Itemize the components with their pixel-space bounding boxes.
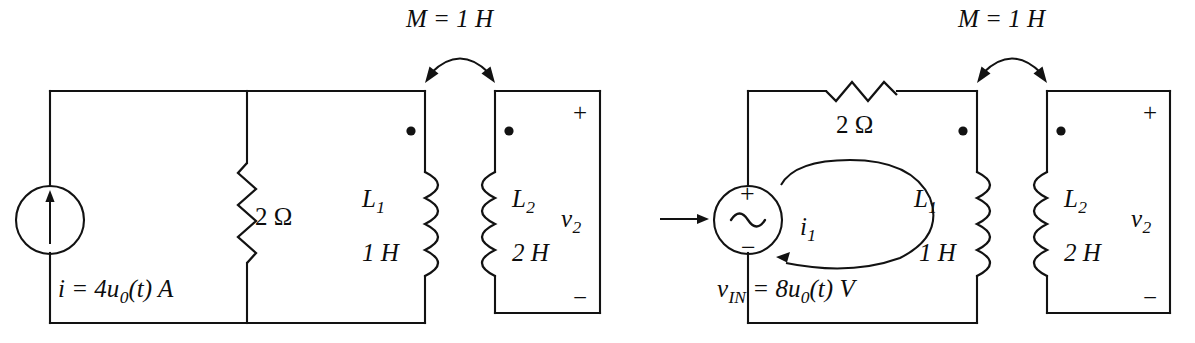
transform-arrow-head <box>697 214 709 224</box>
right-L1-polarity-dot <box>958 126 967 135</box>
left-coupling-arc <box>431 59 489 74</box>
left-L1-label: L1 <box>362 186 385 216</box>
left-coupling-label: M = 1 H <box>406 6 493 31</box>
transform-arrow-group <box>660 214 709 224</box>
right-coupling-label: M = 1 H <box>958 6 1045 31</box>
right-output-plus-sign: + <box>1143 100 1157 125</box>
voltage-source-plus-sign: + <box>740 181 755 207</box>
right-L1-coil <box>977 172 990 276</box>
current-source-arrowhead <box>45 190 54 202</box>
right-coupling-arc <box>983 59 1041 74</box>
left-L2-polarity-dot <box>504 126 513 135</box>
left-L1-value: 1 H <box>362 240 399 265</box>
voltage-source-minus-sign: − <box>741 235 756 261</box>
left-source-label: i = 4u0(t) A <box>58 276 173 306</box>
right-L2-polarity-dot <box>1056 126 1065 135</box>
left-L2-value: 2 H <box>512 240 549 265</box>
left-output-minus-sign: − <box>573 285 587 310</box>
left-output-plus-sign: + <box>573 100 587 125</box>
mesh-current-label: i1 <box>800 214 816 244</box>
circuit-drawing <box>0 0 1195 343</box>
figure-canvas: M = 1 H 2 Ω L1 1 H L2 2 H v2 + − i = 4u0… <box>0 0 1195 343</box>
left-L1-polarity-dot <box>406 126 415 135</box>
right-L2-value: 2 H <box>1064 240 1101 265</box>
right-L1-label: L1 <box>914 186 937 216</box>
left-output-voltage-label: v2 <box>561 206 581 236</box>
left-L2-label: L2 <box>512 186 535 216</box>
left-L1-coil <box>425 172 438 276</box>
right-output-minus-sign: − <box>1143 285 1157 310</box>
left-resistor-label: 2 Ω <box>255 204 292 229</box>
left-resistor-zigzag <box>238 163 256 263</box>
right-resistor-zigzag <box>826 82 897 101</box>
right-L2-coil <box>1034 172 1047 276</box>
right-resistor-label: 2 Ω <box>836 112 873 137</box>
left-L2-coil <box>482 172 495 276</box>
right-source-label: vIN = 8u0(t) V <box>717 276 855 306</box>
voltage-source-sine-wave <box>731 214 765 227</box>
right-L2-label: L2 <box>1064 186 1087 216</box>
right-output-voltage-label: v2 <box>1131 206 1151 236</box>
mesh-current-arrowhead <box>776 252 790 263</box>
right-L1-value: 1 H <box>919 240 956 265</box>
